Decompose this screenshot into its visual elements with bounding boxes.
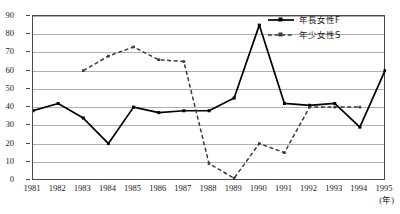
data-point-marker [384, 69, 387, 72]
data-point-marker [157, 58, 160, 61]
data-point-marker [233, 177, 236, 180]
data-point-marker [358, 126, 361, 129]
y-axis-tick-label: 0 [0, 175, 14, 183]
data-point-marker [107, 142, 110, 145]
legend-label: 年長女性F [299, 15, 340, 25]
data-point-marker [258, 142, 261, 145]
y-axis-tick-label: 30 [0, 120, 14, 128]
data-point-marker [283, 151, 286, 154]
data-point-marker [359, 106, 362, 109]
data-point-marker [57, 102, 60, 105]
y-axis-tick-label: 20 [0, 139, 14, 147]
data-point-marker [258, 24, 261, 27]
y-axis-tick-mark [26, 161, 30, 162]
y-axis-tick-label: 50 [0, 84, 14, 92]
y-axis-tick-label: 90 [0, 11, 14, 19]
data-point-marker [233, 97, 236, 100]
y-axis-tick-label: 60 [0, 66, 14, 74]
data-point-marker [333, 102, 336, 105]
y-axis-tick-mark [26, 70, 30, 71]
data-point-marker [308, 106, 311, 109]
legend-line-sample-icon [268, 15, 294, 25]
y-axis-tick-mark [26, 143, 30, 144]
y-axis-tick-mark [26, 51, 30, 52]
legend-item-1: 年長女性F [268, 12, 384, 27]
y-axis-tick-label: 80 [0, 29, 14, 37]
data-point-marker [132, 46, 135, 49]
data-point-marker [208, 109, 211, 112]
data-point-marker [157, 111, 160, 114]
legend-item-2: 年少女性S [268, 27, 384, 42]
x-axis-tick-label: 1995 [364, 184, 400, 193]
legend-line-sample-icon [268, 30, 294, 40]
data-point-marker [333, 106, 336, 109]
y-axis-tick-mark [26, 33, 30, 34]
data-point-marker [107, 55, 110, 58]
data-point-marker [182, 109, 185, 112]
y-axis-tick-mark [26, 15, 30, 16]
chart-figure: 0102030405060708090 19811982198319841985… [0, 0, 400, 214]
series-line-1 [33, 25, 385, 143]
y-axis-tick-mark [26, 179, 30, 180]
y-axis-tick-label: 40 [0, 102, 14, 110]
data-point-marker [183, 60, 186, 63]
data-point-marker [33, 109, 35, 112]
y-axis-tick-label: 70 [0, 47, 14, 55]
data-point-marker [132, 106, 135, 109]
chart-legend: 年長女性F年少女性S [268, 12, 384, 42]
y-axis-tick-mark [26, 88, 30, 89]
y-axis-tick-label: 10 [0, 157, 14, 165]
y-axis-tick-mark [26, 124, 30, 125]
data-point-marker [82, 117, 85, 120]
clipped-text-remnant [2, 0, 122, 5]
data-point-marker [283, 102, 286, 105]
x-axis-unit-label: (年) [379, 196, 394, 205]
series-line-2 [83, 47, 360, 178]
data-point-marker [208, 162, 211, 165]
data-point-marker [82, 69, 85, 72]
y-axis-tick-mark [26, 106, 30, 107]
legend-label: 年少女性S [299, 30, 340, 40]
